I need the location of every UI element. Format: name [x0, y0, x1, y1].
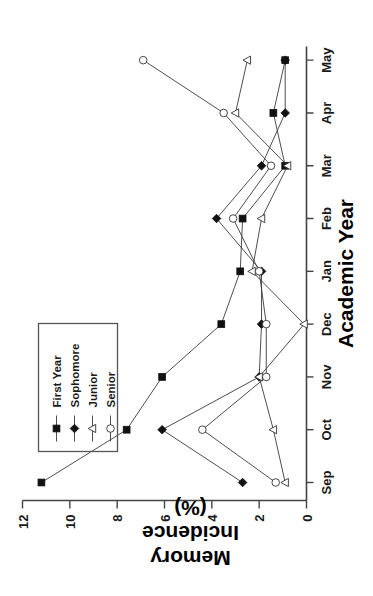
y-tick-label-0: 0: [299, 514, 314, 521]
y-tick-label-12: 12: [15, 514, 30, 528]
data-point-legend-1: [70, 424, 79, 433]
data-point-0-2: [158, 373, 165, 380]
data-point-2-8: [243, 56, 251, 64]
data-point-1-7: [280, 108, 289, 117]
x-tick-label-sep: Sep: [318, 470, 333, 494]
data-point-2-7: [231, 108, 239, 116]
data-point-2-4: [247, 267, 255, 275]
data-point-0-3: [217, 320, 224, 327]
y-axis-title-line3: (%): [174, 496, 207, 519]
data-point-3-0: [271, 478, 279, 486]
x-tick-label-jan: Jan: [318, 260, 333, 282]
y-axis-title-line1: Memory: [149, 546, 230, 569]
x-axis-title: Academic Year: [333, 198, 356, 347]
series-senior: [139, 56, 279, 486]
legend-item-sophomore[interactable]: Sophomore: [68, 343, 80, 441]
legend-label: Sophomore: [68, 343, 80, 407]
series-line: [162, 60, 285, 482]
x-tick-label-feb: Feb: [318, 206, 333, 229]
data-point-3-5: [229, 214, 237, 222]
line-chart-svg: SepOctNovDecJanFebMarAprMay 024681012 Ac…: [0, 0, 373, 596]
data-point-legend-0: [53, 425, 60, 432]
data-point-2-5: [257, 214, 265, 222]
x-tick-label-nov: Nov: [318, 363, 333, 388]
legend[interactable]: First YearSophomoreJuniorSenior: [38, 323, 117, 451]
chart-canvas: SepOctNovDecJanFebMarAprMay 024681012 Ac…: [0, 0, 373, 596]
data-point-3-2: [262, 373, 270, 381]
data-point-0-0: [38, 479, 45, 486]
legend-label: First Year: [50, 354, 62, 407]
x-tick-label-mar: Mar: [318, 154, 333, 177]
data-point-1-6: [257, 161, 266, 170]
data-point-legend-2: [88, 424, 96, 432]
data-point-3-8: [139, 56, 147, 64]
legend-items[interactable]: First YearSophomoreJuniorSenior: [50, 343, 116, 441]
series-sophomore: [157, 55, 289, 486]
legend-label: Senior: [104, 371, 116, 407]
x-axis-tick-labels: SepOctNovDecJanFebMarAprMay: [318, 46, 333, 494]
legend-label: Junior: [86, 371, 98, 407]
data-point-1-1: [157, 425, 166, 434]
data-point-3-1: [198, 425, 206, 433]
data-point-1-0: [238, 478, 247, 487]
x-tick-label-apr: Apr: [318, 101, 333, 123]
data-point-0-4: [236, 267, 243, 274]
legend-item-senior[interactable]: Senior: [104, 371, 116, 441]
data-point-3-7: [219, 109, 227, 117]
data-point-0-1: [123, 426, 130, 433]
legend-item-first-year[interactable]: First Year: [50, 354, 62, 441]
data-point-legend-3: [106, 424, 114, 432]
y-tick-label-2: 2: [252, 514, 267, 521]
y-axis-title-line2: Incidence: [142, 521, 239, 544]
x-tick-label-dec: Dec: [318, 312, 333, 336]
data-point-0-7: [269, 109, 276, 116]
x-tick-label-may: May: [318, 46, 333, 72]
data-series-layer: [38, 55, 307, 486]
data-point-0-5: [239, 215, 246, 222]
data-point-3-4: [255, 267, 263, 275]
x-tick-label-oct: Oct: [318, 418, 333, 440]
rotated-figure: SepOctNovDecJanFebMarAprMay 024681012 Ac…: [0, 0, 373, 596]
y-tick-label-8: 8: [110, 514, 125, 521]
y-tick-label-10: 10: [62, 514, 77, 528]
y-tick-label-6: 6: [157, 514, 172, 521]
legend-item-junior[interactable]: Junior: [86, 371, 98, 441]
series-line: [235, 60, 304, 482]
